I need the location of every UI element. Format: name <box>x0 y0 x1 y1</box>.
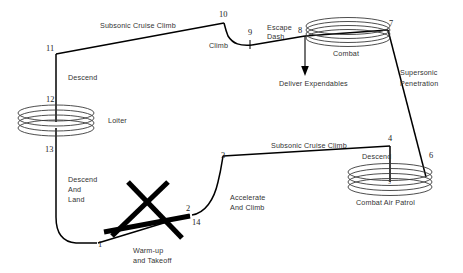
waypoint-label-1: 1 <box>98 240 102 249</box>
waypoint-label-2: 2 <box>186 204 190 213</box>
mission-profile-diagram: Subsonic Cruise Climb Climb Escape Dash … <box>0 0 463 273</box>
waypoint-label-12: 12 <box>46 95 54 104</box>
waypoint-label-7: 7 <box>389 19 393 28</box>
waypoint-label-3: 3 <box>221 151 225 160</box>
waypoint-label-9: 9 <box>248 28 252 37</box>
waypoint-label-5: 5 <box>388 179 391 185</box>
waypoint-label-13: 13 <box>45 145 53 154</box>
waypoint-number-layer: 1 2 3 4 5 6 7 8 9 10 11 12 13 14 <box>0 0 463 273</box>
waypoint-label-14: 14 <box>192 218 201 227</box>
waypoint-label-10: 10 <box>219 10 227 19</box>
waypoint-label-8: 8 <box>298 26 302 35</box>
waypoint-label-4: 4 <box>388 134 393 143</box>
waypoint-label-11: 11 <box>46 44 54 53</box>
waypoint-label-6: 6 <box>429 151 433 160</box>
